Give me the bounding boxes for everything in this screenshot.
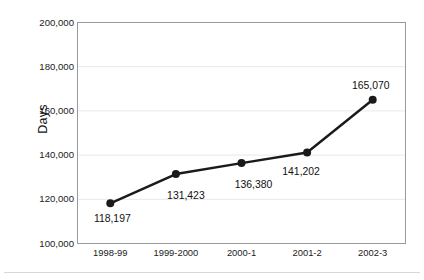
data-value-label: 118,197: [94, 213, 131, 224]
x-tick-label: 2001-2: [292, 247, 321, 258]
x-tick-label: 2002-3: [358, 247, 387, 258]
x-tick-label: 1998-99: [93, 247, 127, 258]
data-value-labels: 118,197131,423136,380141,202165,070: [0, 0, 424, 280]
x-axis-tick-labels: 1998-991999-20002000-12001-22002-3: [0, 247, 424, 265]
x-tick-label: 2000-1: [227, 247, 256, 258]
x-tick-label: 1999-2000: [153, 247, 198, 258]
data-value-label: 136,380: [235, 179, 273, 190]
data-value-label: 131,423: [167, 190, 205, 201]
data-value-label: 165,070: [352, 80, 390, 91]
bottom-divider: [4, 272, 420, 273]
line-chart-figure: Days 100,000120,000140,000160,000180,000…: [0, 0, 424, 280]
data-value-label: 141,202: [282, 166, 320, 177]
